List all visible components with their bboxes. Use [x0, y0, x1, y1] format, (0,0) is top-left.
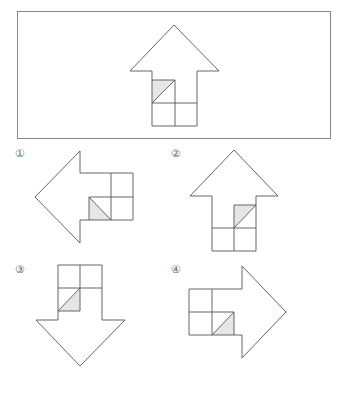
puzzle-canvas: [0, 0, 341, 405]
option-1-label[interactable]: ①: [15, 148, 25, 159]
option-4-label[interactable]: ④: [171, 264, 181, 275]
option-3-label[interactable]: ③: [15, 264, 25, 275]
option-2-arrow[interactable]: [190, 150, 278, 251]
option-3-arrow[interactable]: [36, 265, 125, 366]
reference-arrow: [130, 25, 219, 126]
option-1-arrow[interactable]: [35, 151, 133, 243]
option-2-label[interactable]: ②: [171, 148, 181, 159]
reference-frame: [18, 12, 331, 139]
option-4-arrow[interactable]: [189, 266, 286, 358]
